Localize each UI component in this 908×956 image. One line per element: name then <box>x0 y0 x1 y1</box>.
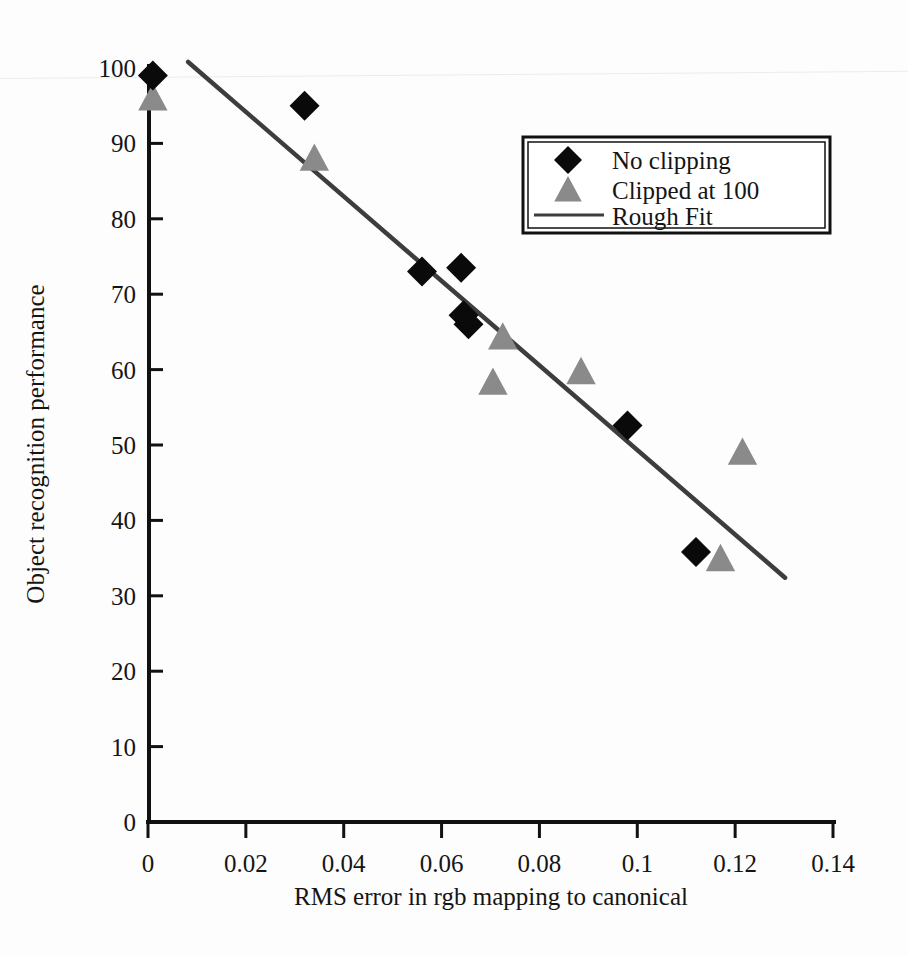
data-point-diamond <box>138 61 168 91</box>
data-point-diamond <box>290 91 320 121</box>
y-tick-label: 100 <box>99 55 137 82</box>
legend-entry-label: No clipping <box>612 147 731 174</box>
y-axis-ticks: 0102030405060708090100 <box>99 55 164 836</box>
scatter-plot: 0102030405060708090100 00.020.040.060.08… <box>0 0 908 956</box>
data-point-diamond <box>446 253 476 283</box>
y-tick-label: 10 <box>111 734 136 761</box>
y-tick-label: 80 <box>111 206 136 233</box>
x-tick-label: 0 <box>142 850 155 877</box>
y-tick-label: 60 <box>111 357 136 384</box>
y-axis-title: Object recognition performance <box>22 284 49 603</box>
x-tick-label: 0.04 <box>322 850 366 877</box>
chart-page: 0102030405060708090100 00.020.040.060.08… <box>0 0 908 956</box>
y-tick-label: 0 <box>124 809 137 836</box>
y-tick-label: 30 <box>111 583 136 610</box>
legend-entry-label: Rough Fit <box>612 203 713 230</box>
x-tick-label: 0.14 <box>811 850 855 877</box>
legend-entry-label: Clipped at 100 <box>612 177 759 204</box>
x-tick-label: 0.06 <box>420 850 464 877</box>
data-point-triangle <box>706 544 735 571</box>
y-tick-label: 20 <box>111 658 136 685</box>
x-tick-label: 0.02 <box>224 850 268 877</box>
data-point-diamond <box>613 410 643 440</box>
data-point-triangle <box>728 438 757 465</box>
data-point-triangle <box>566 357 595 384</box>
y-tick-label: 40 <box>111 507 136 534</box>
y-tick-label: 50 <box>111 432 136 459</box>
x-axis-ticks: 00.020.040.060.080.10.120.14 <box>142 822 856 877</box>
x-axis-title: RMS error in rgb mapping to canonical <box>294 883 688 910</box>
y-tick-label: 70 <box>111 281 136 308</box>
data-point-diamond <box>681 537 711 567</box>
y-tick-label: 90 <box>111 130 136 157</box>
x-tick-label: 0.12 <box>713 850 757 877</box>
data-point-diamond <box>407 257 437 287</box>
x-tick-label: 0.1 <box>622 850 653 877</box>
legend[interactable]: No clippingClipped at 100Rough Fit <box>523 137 830 233</box>
data-point-triangle <box>300 143 329 170</box>
data-point-triangle <box>478 367 507 394</box>
x-tick-label: 0.08 <box>518 850 562 877</box>
